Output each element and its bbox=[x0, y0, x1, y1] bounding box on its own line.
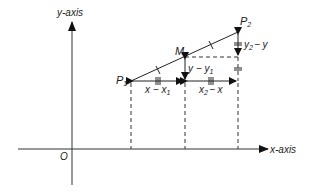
x-axis-label: x-axis bbox=[269, 144, 296, 155]
label-x-minus-x1: x − x1 bbox=[144, 84, 170, 96]
point-p1-label: P1 bbox=[116, 74, 127, 87]
label-x2-minus-x: x2− x bbox=[198, 84, 224, 96]
origin-label: O bbox=[60, 151, 68, 162]
label-y2-minus-y: y2− y bbox=[243, 39, 269, 51]
double-tick-lower bbox=[234, 68, 242, 70]
midpoint-diagram: y-axis x-axis O P1 M P2 x − x1 x2− x y −… bbox=[0, 0, 312, 194]
point-m-label: M bbox=[175, 45, 185, 57]
label-y-minus-y1: y − y1 bbox=[187, 63, 213, 75]
y-axis-label: y-axis bbox=[56, 7, 83, 18]
equal-tick-p1-m bbox=[156, 66, 160, 74]
point-p2-label: P2 bbox=[240, 15, 251, 28]
